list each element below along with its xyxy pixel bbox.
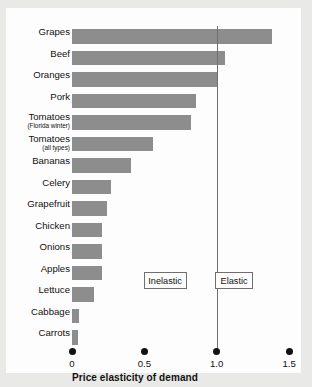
category-label-main: Beef [0,48,70,59]
category-label: Chicken [0,220,70,231]
category-label-main: Apples [0,263,70,274]
category-label-main: Celery [0,177,70,188]
elastic-zone-label: Elastic [215,272,253,289]
category-label: Apples [0,263,70,274]
x-tick-label: 1.0 [210,358,223,369]
bar [72,223,102,238]
category-label: Grapefruit [0,198,70,209]
bar [72,180,111,195]
x-axis-title: Price elasticity of demand [72,372,198,383]
bar [72,158,131,173]
category-label: Cabbage [0,306,70,317]
bar-row: Grapes [6,26,301,48]
elastic-zone-text: Elastic [221,276,248,286]
bar [72,115,191,130]
bar-row: Bananas [6,155,301,177]
category-label: Onions [0,241,70,252]
chart-figure: GrapesBeefOrangesPorkTomatoes(Florida wi… [6,8,301,373]
bar [72,51,225,66]
category-label: Beef [0,48,70,59]
x-tick-marker [213,348,220,355]
bar [72,72,217,87]
x-tick-label: 1.5 [282,358,295,369]
category-label: Celery [0,177,70,188]
category-label: Bananas [0,155,70,166]
bar-row: Carrots [6,327,301,349]
bar [72,29,272,44]
category-label: Tomatoes(Florida winter) [0,111,70,130]
category-label-main: Pork [0,91,70,102]
bar [72,330,78,345]
category-label: Tomatoes(all types) [0,133,70,152]
category-label-main: Tomatoes [0,133,70,144]
bar-row: Chicken [6,220,301,242]
category-label-main: Lettuce [0,284,70,295]
bar-row: Grapefruit [6,198,301,220]
bar [72,287,94,302]
bar-row: Oranges [6,69,301,91]
bar-row: Tomatoes(all types) [6,134,301,156]
category-label-main: Tomatoes [0,111,70,122]
bar-row: Celery [6,177,301,199]
bar [72,94,196,109]
x-tick-label: 0.5 [138,358,151,369]
category-label-main: Carrots [0,327,70,338]
x-tick-label: 0 [69,358,74,369]
bar-row: Pork [6,91,301,113]
bar [72,201,107,216]
inelastic-zone-label: Inelastic [144,272,187,289]
bar-row: Cabbage [6,306,301,328]
plot-area: GrapesBeefOrangesPorkTomatoes(Florida wi… [6,8,301,373]
category-label-main: Bananas [0,155,70,166]
bar-row: Onions [6,241,301,263]
bar [72,266,102,281]
category-label-sub: (all types) [0,144,70,152]
bar [72,137,153,152]
x-tick-marker [286,348,293,355]
category-label-main: Grapes [0,26,70,37]
category-label-main: Chicken [0,220,70,231]
category-label: Carrots [0,327,70,338]
category-label: Lettuce [0,284,70,295]
category-label: Pork [0,91,70,102]
bar [72,309,79,324]
category-label-main: Oranges [0,69,70,80]
category-label-sub: (Florida winter) [0,122,70,130]
unit-elastic-reference-line [217,26,218,352]
bar-row: Tomatoes(Florida winter) [6,112,301,134]
x-tick-marker [141,348,148,355]
category-label: Oranges [0,69,70,80]
inelastic-zone-text: Inelastic [148,276,182,286]
bar-row: Beef [6,48,301,70]
bar [72,244,102,259]
category-label-main: Cabbage [0,306,70,317]
category-label: Grapes [0,26,70,37]
x-tick-marker [69,348,76,355]
category-label-main: Grapefruit [0,198,70,209]
category-label-main: Onions [0,241,70,252]
